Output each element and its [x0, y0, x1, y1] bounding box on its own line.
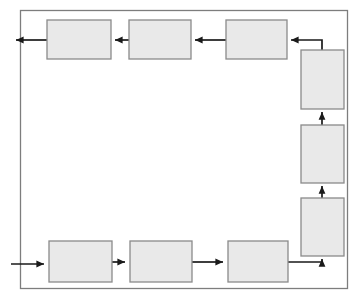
- block-top-2-rect[interactable]: [129, 20, 191, 59]
- block-right-1-rect[interactable]: [301, 50, 344, 109]
- connector-layer: [11, 40, 322, 264]
- block-right-3-rect[interactable]: [301, 198, 344, 256]
- block-top-1[interactable]: [47, 20, 111, 59]
- block-bottom-2-rect[interactable]: [130, 241, 192, 282]
- block-bottom-1[interactable]: [49, 241, 112, 282]
- connector-right-1-to-top-3: [291, 40, 322, 50]
- block-bottom-1-rect[interactable]: [49, 241, 112, 282]
- block-bottom-3[interactable]: [228, 241, 288, 282]
- block-top-3-rect[interactable]: [226, 20, 287, 59]
- block-right-2[interactable]: [301, 125, 344, 183]
- block-top-3[interactable]: [226, 20, 287, 59]
- block-bottom-2[interactable]: [130, 241, 192, 282]
- block-right-1[interactable]: [301, 50, 344, 109]
- block-flow-diagram: [0, 0, 358, 299]
- connector-bottom-3-to-right-3: [288, 259, 322, 262]
- block-right-3[interactable]: [301, 198, 344, 256]
- block-top-2[interactable]: [129, 20, 191, 59]
- block-layer: [47, 20, 344, 282]
- diagram-canvas: [0, 0, 358, 299]
- block-right-2-rect[interactable]: [301, 125, 344, 183]
- block-bottom-3-rect[interactable]: [228, 241, 288, 282]
- block-top-1-rect[interactable]: [47, 20, 111, 59]
